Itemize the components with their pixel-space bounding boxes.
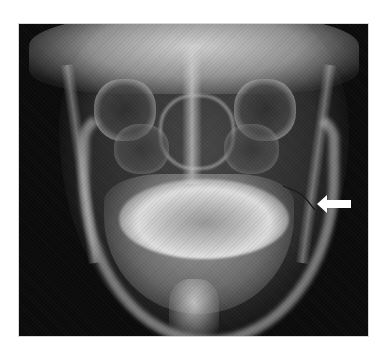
arrow-left-icon (317, 195, 351, 213)
xray-image (19, 24, 368, 336)
film-grain (19, 24, 368, 336)
